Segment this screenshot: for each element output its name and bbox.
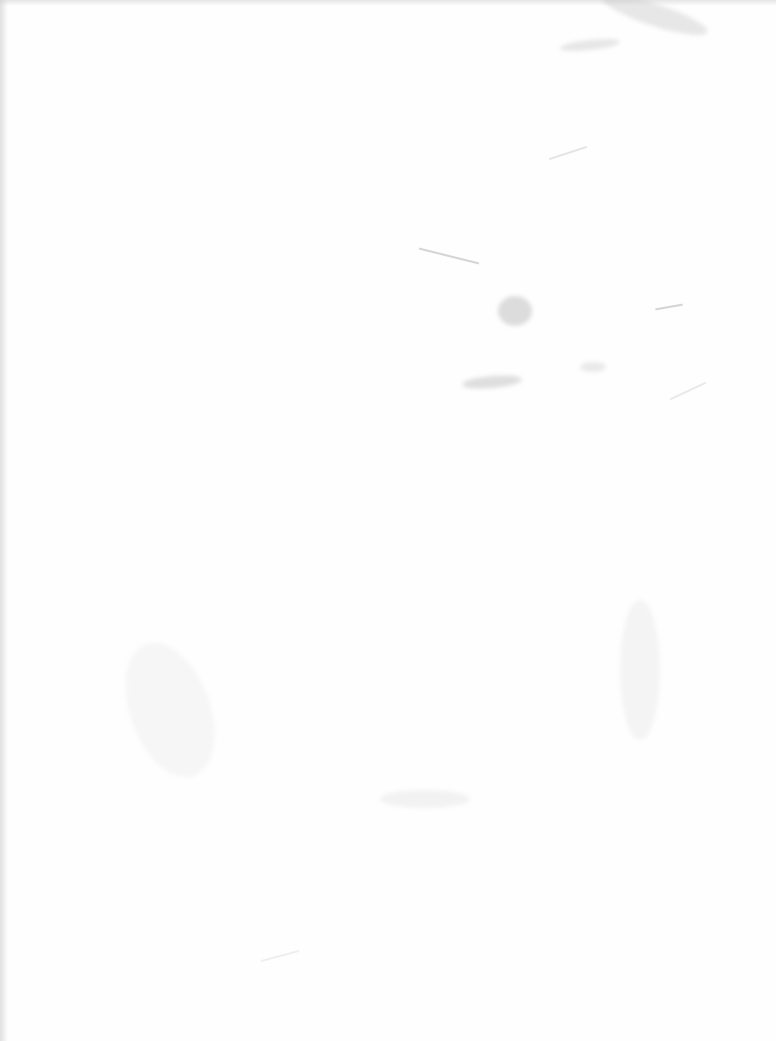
scan-smudge	[380, 790, 470, 808]
scan-streak	[669, 382, 706, 401]
scan-smudge	[580, 362, 606, 372]
scan-edge-shadow-left	[0, 0, 8, 1041]
scan-streak	[549, 146, 588, 160]
scan-streak	[655, 304, 683, 311]
scan-smudge	[108, 631, 231, 790]
scan-smudge	[560, 37, 621, 53]
blank-page	[0, 0, 776, 1041]
scan-streak	[419, 248, 480, 265]
scan-streak	[260, 950, 299, 962]
scan-smudge	[620, 600, 660, 740]
scan-smudge	[498, 296, 532, 326]
scan-smudge	[462, 373, 523, 390]
scan-smudge	[599, 0, 710, 42]
